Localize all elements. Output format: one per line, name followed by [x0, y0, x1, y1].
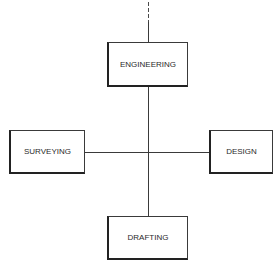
node-drafting-label: DRAFTING	[128, 233, 169, 242]
incoming-connector-dashed	[148, 2, 149, 22]
node-engineering: ENGINEERING	[107, 42, 188, 87]
node-design-label: DESIGN	[226, 147, 257, 156]
incoming-connector-solid	[148, 22, 149, 42]
node-design: DESIGN	[209, 130, 273, 174]
node-surveying-label: SURVEYING	[24, 147, 71, 156]
connector-surveying-design	[85, 152, 209, 153]
node-surveying: SURVEYING	[9, 130, 85, 174]
node-engineering-label: ENGINEERING	[120, 60, 176, 69]
node-drafting: DRAFTING	[107, 216, 188, 260]
